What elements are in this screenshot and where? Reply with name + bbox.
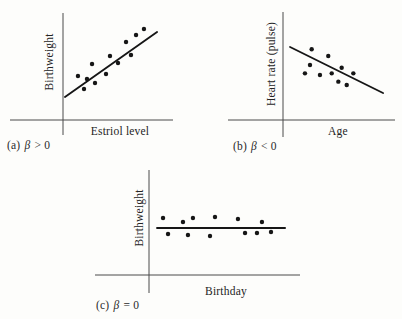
data-point <box>339 66 343 70</box>
data-point <box>208 234 212 238</box>
plot-b-caption: (b) β < 0 <box>233 141 277 153</box>
data-point <box>82 87 86 91</box>
data-point <box>116 61 120 65</box>
plot-c-x-axis-label: Birthday <box>205 286 247 298</box>
beta-symbol: β <box>250 140 258 152</box>
data-point <box>181 220 185 224</box>
data-point <box>161 216 165 220</box>
plot-c-y-axis-label: Birthweight <box>134 189 146 246</box>
data-point <box>303 71 307 75</box>
figure-regression-slope-examples: Birthweight Estriol level (a) β > 0 Hear… <box>0 0 402 319</box>
data-point <box>142 27 146 31</box>
data-point <box>236 217 240 221</box>
data-point <box>318 73 322 77</box>
data-point <box>351 71 355 75</box>
data-point <box>243 231 247 235</box>
data-point <box>134 33 138 37</box>
plot-b <box>228 12 395 137</box>
data-point <box>108 54 112 58</box>
plot-a-y-axis-label: Birthweight <box>44 33 56 90</box>
data-point <box>255 231 259 235</box>
data-point <box>90 62 94 66</box>
plot-c <box>95 170 300 293</box>
data-point <box>330 71 334 75</box>
data-point <box>213 215 217 219</box>
data-point <box>76 74 80 78</box>
plot-c-caption-relation: = 0 <box>120 299 139 311</box>
data-point <box>191 216 195 220</box>
data-point <box>104 72 108 76</box>
data-point <box>85 77 89 81</box>
plot-a-x-axis-label: Estriol level <box>91 126 150 138</box>
plot-b-caption-relation: < 0 <box>258 140 277 152</box>
plot-a-caption: (a) β > 0 <box>7 140 50 152</box>
plot-c-caption-prefix: (c) <box>96 299 112 311</box>
data-point <box>345 83 349 87</box>
data-point <box>326 54 330 58</box>
data-point <box>308 63 312 67</box>
plot-c-caption: (c) β = 0 <box>96 300 139 312</box>
data-point <box>93 81 97 85</box>
data-point <box>269 230 273 234</box>
trend-line-a <box>65 32 157 97</box>
plot-a-caption-prefix: (a) <box>7 139 23 151</box>
data-point <box>129 53 133 57</box>
data-point <box>336 79 340 83</box>
data-point <box>166 232 170 236</box>
plots-canvas <box>0 0 402 319</box>
data-point <box>260 220 264 224</box>
plot-a-caption-relation: > 0 <box>31 139 50 151</box>
plot-b-caption-prefix: (b) <box>233 140 250 152</box>
data-point <box>186 233 190 237</box>
data-point <box>309 47 313 51</box>
plot-a <box>10 13 173 135</box>
plot-b-x-axis-label: Age <box>328 126 348 138</box>
plot-b-y-axis-label: Heart rate (pulse) <box>266 22 278 106</box>
data-point <box>124 40 128 44</box>
trend-line-b <box>290 47 383 93</box>
